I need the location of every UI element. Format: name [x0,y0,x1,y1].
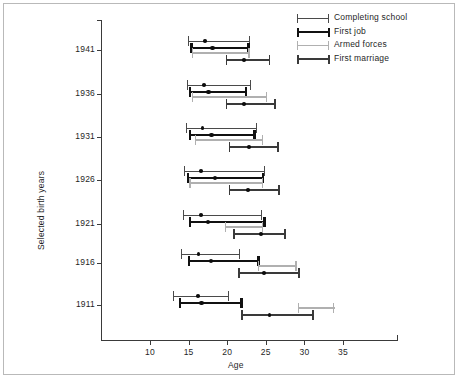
range-cap-low [226,55,228,65]
y-tick [97,224,102,225]
range-bar-first-marriage-1941 [226,54,271,66]
range-cap-high [312,310,314,320]
y-tick-label-1936: 1936 [53,88,95,98]
x-tick-label-30: 30 [290,347,318,357]
range-bar-first-job-1911 [179,297,243,309]
range-line [179,302,243,304]
range-line [241,314,314,316]
range-cap-low [188,256,190,266]
x-tick [189,340,190,345]
legend-swatch [296,53,330,66]
range-cap-low [184,166,185,176]
median-marker [268,313,272,317]
x-tick-label-20: 20 [213,347,241,357]
legend-cap-right [328,14,329,23]
range-cap-low [186,123,187,133]
legend-cap-left [297,55,299,64]
chart-canvas: 1941193619311926192119161911 10152025303… [0,0,460,382]
x-tick-label-25: 25 [252,347,280,357]
range-bar-first-job-1916 [188,255,260,267]
legend-line [297,45,329,46]
legend-line [297,18,329,19]
legend-label: Armed forces [334,39,387,49]
median-marker [206,220,211,225]
range-line [226,59,271,61]
legend-swatch [296,26,330,39]
legend-cap-right [328,41,329,50]
median-marker [209,259,214,264]
range-cap-high [277,142,279,152]
range-line [238,272,300,274]
range-cap-low [195,135,196,145]
range-bar-first-marriage-1926 [229,184,280,196]
legend-label: Completing school [334,12,407,22]
x-tick-label-10: 10 [136,347,164,357]
range-cap-high [278,185,280,195]
legend-cap-left [297,28,299,37]
y-tick [97,94,102,95]
x-tick [266,340,267,345]
range-cap-low [233,229,235,239]
median-marker [246,188,250,192]
range-bar-first-marriage-1921 [233,228,285,240]
range-cap-low [192,92,193,102]
range-line [229,189,280,191]
range-cap-low [188,36,189,46]
range-cap-low [173,291,174,301]
y-tick [97,137,102,138]
median-marker [262,271,266,275]
legend-item-first-marriage[interactable]: First marriage [296,53,456,66]
range-cap-low [192,48,193,58]
range-cap-low [179,298,181,308]
range-line [226,103,276,105]
legend-item-completing-school[interactable]: Completing school [296,12,456,25]
range-cap-high [263,217,265,227]
legend-swatch [296,12,330,25]
x-tick-label-15: 15 [175,347,203,357]
x-tick [227,340,228,345]
y-tick-label-1921: 1921 [53,218,95,228]
range-line [188,260,260,262]
y-tick [97,180,102,181]
range-cap-low [229,185,231,195]
legend-cap-left [297,14,298,23]
legend-cap-left [297,41,298,50]
range-line [229,146,279,148]
median-marker [247,145,251,149]
range-cap-low [241,310,243,320]
x-axis-title: Age [228,360,244,370]
range-cap-high [274,99,276,109]
range-cap-low [189,217,191,227]
legend-label: First job [334,26,366,36]
range-cap-low [225,222,226,232]
range-cap-low [189,87,191,97]
range-cap-low [226,99,228,109]
legend-item-armed-forces[interactable]: Armed forces [296,39,456,52]
y-tick [97,305,102,306]
range-cap-high [333,303,334,313]
x-tick [304,340,305,345]
range-cap-low [183,210,184,220]
range-cap-high [250,80,251,90]
y-axis-title: Selected birth years [36,171,46,250]
y-tick-label-1916: 1916 [53,257,95,267]
y-tick [97,263,102,264]
legend-item-first-job[interactable]: First job [296,26,456,39]
legend-label: First marriage [334,53,389,63]
y-tick-label-1911: 1911 [53,299,95,309]
legend-line [297,58,329,60]
median-marker [242,102,246,106]
median-marker [242,58,246,62]
x-tick [150,340,151,345]
median-marker [259,232,263,236]
x-axis-line [101,340,397,341]
y-tick-label-1926: 1926 [53,174,95,184]
range-cap-high [256,123,257,133]
legend-swatch [296,39,330,52]
legend-cap-right [328,55,330,64]
range-cap-low [189,130,191,140]
x-tick-label-35: 35 [329,347,357,357]
range-bar-first-marriage-1911 [241,309,314,321]
range-cap-high [240,298,242,308]
range-cap-high [269,55,271,65]
